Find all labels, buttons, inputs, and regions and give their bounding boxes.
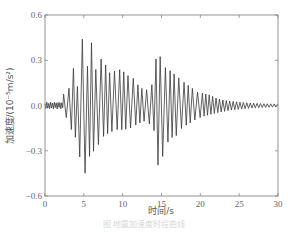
x-tick-label: 10 bbox=[118, 199, 128, 209]
y-tick-label: −0.3 bbox=[26, 146, 43, 156]
y-axis-label: 加速度/(10⁻⁵m/s²) bbox=[4, 68, 15, 145]
y-tick-label: 0.0 bbox=[31, 101, 43, 111]
acceleration-waveform bbox=[45, 39, 278, 173]
x-tick-label: 20 bbox=[196, 199, 206, 209]
y-tick-label: −0.6 bbox=[26, 191, 43, 201]
y-tick-label: 0.6 bbox=[31, 10, 43, 20]
acceleration-time-history-chart: 051015202530 −0.6−0.30.00.30.6 时间/s 加速度/… bbox=[0, 0, 288, 232]
x-axis-label: 时间/s bbox=[148, 205, 174, 216]
y-tick-label: 0.3 bbox=[31, 55, 43, 65]
y-axis-ticks: −0.6−0.30.00.30.6 bbox=[26, 10, 278, 201]
x-tick-label: 5 bbox=[82, 199, 87, 209]
figure-caption: 图 地震加速度时程曲线 bbox=[0, 218, 288, 229]
x-axis-ticks: 051015202530 bbox=[43, 15, 283, 209]
plot-area bbox=[45, 39, 278, 173]
x-tick-label: 30 bbox=[274, 199, 284, 209]
x-tick-label: 0 bbox=[43, 199, 48, 209]
x-tick-label: 25 bbox=[235, 199, 245, 209]
